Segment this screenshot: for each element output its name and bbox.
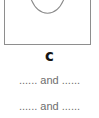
caption-line-1: ...... and ...... [0, 74, 99, 87]
caption-line-2: ...... and ...... [0, 100, 99, 113]
u-shaped-curve-icon [5, 0, 90, 44]
panel-letter: c [0, 48, 99, 65]
plot-frame [4, 0, 91, 45]
figure-panel: c ...... and ...... ...... and ...... [0, 0, 99, 118]
